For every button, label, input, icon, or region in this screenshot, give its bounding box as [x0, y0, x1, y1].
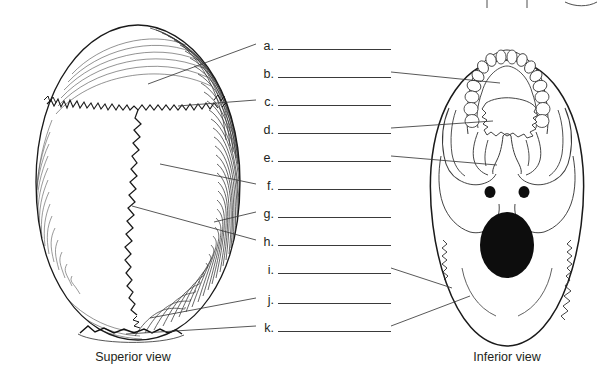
vomer-left	[493, 136, 503, 174]
label-letter-h: h.	[258, 236, 274, 249]
occipital-lower-contour-left	[462, 268, 496, 316]
label-row-g[interactable]: g.	[258, 204, 391, 224]
label-letter-f: f.	[258, 180, 274, 193]
superior-view-caption: Superior view	[73, 350, 193, 364]
answer-blank-g[interactable]	[278, 217, 391, 218]
answer-blank-h[interactable]	[278, 245, 391, 246]
answer-blank-c[interactable]	[278, 105, 391, 106]
vomer-right	[511, 136, 521, 174]
label-row-f[interactable]: f.	[258, 176, 391, 196]
label-letter-b: b.	[258, 68, 274, 81]
leader-line-c	[178, 100, 256, 106]
foramen-magnum-icon	[480, 212, 534, 278]
label-letter-d: d.	[258, 124, 274, 137]
label-row-h[interactable]: h.	[258, 232, 391, 252]
inferior-view-caption: Inferior view	[447, 350, 567, 364]
top-crop-artifacts	[487, 0, 597, 8]
leader-line-k-right	[391, 296, 470, 326]
hard-palate	[482, 98, 538, 138]
skull-superior-view-icon	[36, 25, 242, 345]
answer-blank-i[interactable]	[278, 273, 391, 274]
label-letter-a: a.	[258, 40, 274, 53]
label-row-k[interactable]: k.	[258, 318, 391, 338]
answer-blank-e[interactable]	[278, 161, 391, 162]
label-row-i[interactable]: i.	[258, 260, 391, 280]
skull-inferior-view-icon	[430, 50, 583, 346]
label-letter-e: e.	[258, 152, 274, 165]
label-row-d[interactable]: d.	[258, 120, 391, 140]
answer-blank-a[interactable]	[278, 49, 391, 50]
occipital-lower-contour-right	[518, 268, 552, 316]
worksheet-page: a.b.c.d.e.f.g.h.i.j.k. Superior view Inf…	[0, 0, 616, 380]
answer-blank-d[interactable]	[278, 133, 391, 134]
coronal-suture-left-end	[44, 96, 56, 103]
label-letter-j: j.	[258, 294, 274, 307]
lambda-point	[133, 316, 140, 328]
pterygoid-plate-right	[526, 132, 541, 175]
label-row-c[interactable]: c.	[258, 92, 391, 112]
pterygoid-hamulus-left	[485, 140, 488, 166]
zygomatic-arch-left-inner	[451, 110, 465, 176]
label-row-a[interactable]: a.	[258, 36, 391, 56]
label-letter-c: c.	[258, 96, 274, 109]
answer-blank-f[interactable]	[278, 189, 391, 190]
sagittal-suture	[125, 110, 141, 315]
pterygoid-hamulus-right	[526, 140, 529, 166]
zygomatic-arch-right-inner	[549, 110, 563, 176]
label-row-e[interactable]: e.	[258, 148, 391, 168]
temporal-bone-left	[439, 156, 470, 232]
answer-blank-j[interactable]	[278, 303, 391, 304]
label-letter-g: g.	[258, 208, 274, 221]
label-letter-k: k.	[258, 322, 274, 335]
label-row-b[interactable]: b.	[258, 64, 391, 84]
carotid-canal-left-icon	[485, 186, 496, 198]
leader-line-f	[160, 164, 256, 184]
label-row-j[interactable]: j.	[258, 290, 391, 310]
pterygoid-plate-left	[473, 132, 488, 175]
answer-blank-b[interactable]	[278, 77, 391, 78]
leader-line-a	[148, 44, 256, 84]
answer-blank-k[interactable]	[278, 331, 391, 332]
carotid-canal-right-icon	[519, 186, 530, 198]
label-letter-i: i.	[258, 264, 274, 277]
temporal-bone-right	[544, 156, 575, 232]
